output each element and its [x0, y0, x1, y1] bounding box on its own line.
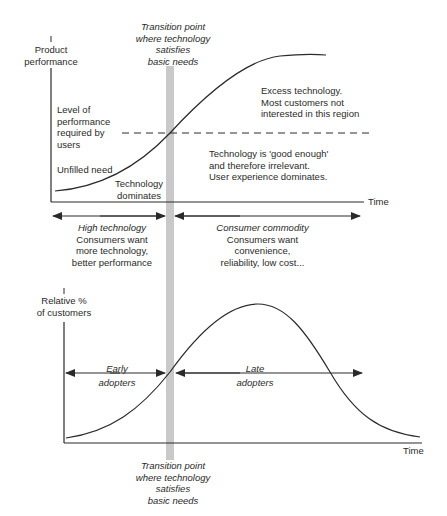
required-level-label: Level of performance required by users [57, 104, 127, 150]
label-line: performance [18, 56, 84, 68]
bottom-transition-label: Transition point where technology satisf… [120, 460, 226, 506]
label-line: convenience, [210, 245, 315, 257]
label-line: adopters [230, 376, 280, 390]
label-line: Technology is 'good enough' [209, 148, 359, 160]
label-line: Transition point [120, 21, 226, 33]
label-line: satisfies [120, 483, 226, 495]
early-adopters-label: Early adopters [92, 362, 142, 390]
label-line: better performance [62, 257, 162, 269]
label-line: users [57, 139, 127, 151]
label-line: Most customers not [261, 97, 401, 109]
label-line: Relative % [28, 295, 100, 307]
technology-dominates-label: Technology dominates [112, 178, 166, 201]
top-y-axis-label: Product performance [18, 44, 84, 67]
transition-band [166, 66, 174, 460]
label-line: Consumers want [210, 234, 315, 246]
label-line: satisfies [120, 44, 226, 56]
phase-title: Consumer commodity [210, 222, 315, 234]
label-line: required by [57, 127, 127, 139]
label-line: Technology [112, 178, 166, 190]
bottom-x-axis-label: Time [403, 445, 424, 457]
label-line: adopters [92, 376, 142, 390]
label-line: and therefore irrelevant. [209, 160, 359, 172]
unfilled-need-label: Unfilled need [57, 164, 112, 176]
label-line: Product [18, 44, 84, 56]
label-line: Late [230, 362, 280, 376]
top-transition-label: Transition point where technology satisf… [120, 21, 226, 67]
label-line: where technology [120, 33, 226, 45]
consumer-commodity-phase: Consumer commodity Consumers want conven… [210, 222, 315, 268]
label-line: Early [92, 362, 142, 376]
label-line: interested in this region [261, 108, 401, 120]
label-line: basic needs [120, 56, 226, 68]
label-line: where technology [120, 472, 226, 484]
bottom-y-axis-label: Relative % of customers [28, 295, 100, 318]
good-enough-label: Technology is 'good enough' and therefor… [209, 148, 359, 183]
label-line: more technology, [62, 245, 162, 257]
excess-technology-label: Excess technology. Most customers not in… [261, 85, 401, 120]
label-line: reliability, low cost... [210, 257, 315, 269]
label-line: User experience dominates. [209, 171, 359, 183]
label-line: Excess technology. [261, 85, 401, 97]
label-line: performance [57, 116, 127, 128]
label-line: Level of [57, 104, 127, 116]
label-line: of customers [28, 307, 100, 319]
high-technology-phase: High technology Consumers want more tech… [62, 222, 162, 268]
phase-title: High technology [62, 222, 162, 234]
top-x-axis-label: Time [368, 196, 389, 208]
label-line: basic needs [120, 495, 226, 507]
label-line: dominates [112, 190, 166, 202]
label-line: Consumers want [62, 234, 162, 246]
label-line: Transition point [120, 460, 226, 472]
late-adopters-label: Late adopters [230, 362, 280, 390]
